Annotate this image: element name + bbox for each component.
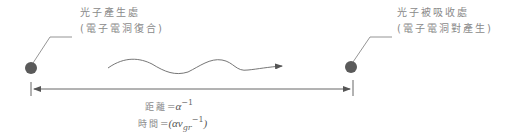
distance-formula: 距離=α−1 xyxy=(145,98,193,113)
emission-leader-line xyxy=(33,37,72,63)
absorption-point-dot xyxy=(345,61,357,73)
absorption-label: 光子被吸收處 (電子電洞對產生) xyxy=(397,6,493,36)
emission-label-line1: 光子產生處 xyxy=(80,6,164,20)
time-formula: 時間=(αvgr−1) xyxy=(138,115,207,132)
distance-label: 距離 xyxy=(145,102,167,112)
emission-label: 光子產生處 (電子電洞復合) xyxy=(80,6,164,36)
absorption-label-line2: (電子電洞對產生) xyxy=(397,22,493,36)
time-subscript: gr xyxy=(183,123,192,132)
absorption-label-line1: 光子被吸收處 xyxy=(397,6,493,20)
distance-exponent: −1 xyxy=(181,98,193,107)
time-exponent: −1 xyxy=(192,115,204,124)
time-label: 時間 xyxy=(138,119,160,129)
emission-label-line2: (電子電洞復合) xyxy=(80,22,164,36)
absorption-leader-line xyxy=(353,37,392,62)
emission-point-dot xyxy=(25,62,37,74)
time-close: ) xyxy=(203,117,207,129)
time-open: (αv xyxy=(168,117,182,129)
photon-wave-arrow xyxy=(108,59,282,73)
